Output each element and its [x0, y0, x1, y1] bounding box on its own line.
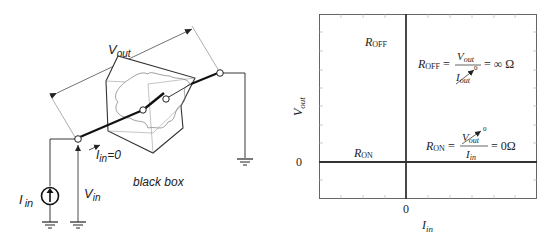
- svg-text:Iin: Iin: [465, 148, 476, 162]
- y-axis-label: Vout: [291, 97, 307, 116]
- black-box-label: black box: [133, 175, 185, 189]
- svg-text:0: 0: [474, 64, 478, 72]
- svg-text:Vout: Vout: [457, 50, 475, 64]
- input-terminal: [75, 136, 82, 143]
- iv-plot: 0 0 Iin Vout ROFF RON ROFF = Vout Iout 0…: [291, 14, 537, 234]
- svg-text:RON =: RON =: [425, 139, 455, 153]
- svg-text:= 0Ω: = 0Ω: [491, 139, 516, 153]
- r-off-label: ROFF: [364, 35, 388, 49]
- output-terminal: [217, 70, 224, 77]
- current-source-icon: [42, 188, 59, 205]
- figure-canvas: Vout Iin=0: [0, 0, 556, 238]
- tick-marks: [319, 14, 537, 199]
- switch-pivot: [140, 107, 146, 113]
- ground-icon-vin: [70, 222, 86, 228]
- vin-label: Vin: [84, 186, 101, 203]
- ground-icon-output: [237, 159, 253, 165]
- svg-text:ROFF =: ROFF =: [417, 57, 450, 71]
- equation-r-off: ROFF = Vout Iout 0 = ∞ Ω: [417, 50, 514, 85]
- switch-contact: [163, 96, 169, 102]
- x-axis-label: Iin: [421, 218, 434, 234]
- svg-text:= ∞ Ω: = ∞ Ω: [484, 57, 514, 71]
- source-label: Iin: [19, 192, 33, 209]
- r-on-label: RON: [353, 146, 373, 160]
- equation-r-on: RON = Vout Iin 0 = 0Ω: [425, 125, 516, 162]
- y-zero-label: 0: [296, 155, 302, 169]
- circuit-diagram: Vout Iin=0: [19, 26, 253, 228]
- ground-icon-source: [42, 222, 58, 228]
- iin-zero-label: Iin=0: [96, 148, 121, 164]
- plot-frame: [320, 15, 537, 199]
- svg-text:0: 0: [483, 125, 487, 133]
- x-zero-label: 0: [403, 202, 409, 216]
